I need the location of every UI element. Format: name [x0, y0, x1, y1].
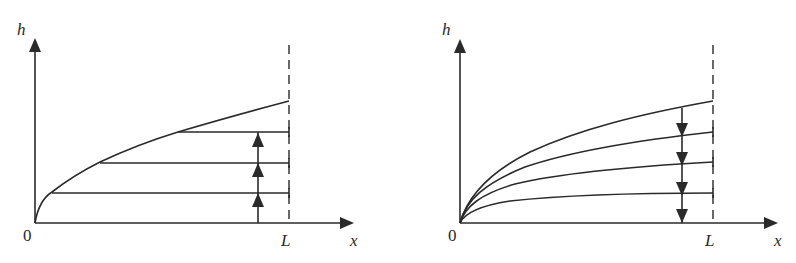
right-curve-2 — [460, 132, 713, 223]
left-up-arrow-icon-3 — [252, 193, 264, 207]
right-y-axis-label: h — [442, 20, 451, 39]
right-down-arrow-icon-4 — [676, 209, 688, 223]
left-y-axis-arrow-icon — [29, 38, 41, 52]
right-origin-label: 0 — [448, 226, 457, 245]
right-x-axis-arrow-icon — [764, 217, 778, 229]
right-y-axis-arrow-icon — [454, 39, 466, 53]
diagram-canvas: h 0 L x h 0 L x — [0, 0, 796, 263]
right-x-axis-label: x — [773, 231, 782, 250]
left-y-axis-label: h — [17, 20, 26, 39]
left-x-axis-arrow-icon — [340, 217, 354, 229]
right-curve-1 — [460, 101, 713, 223]
right-diagram — [454, 39, 778, 229]
left-boundary-label: L — [280, 231, 290, 250]
left-diagram — [29, 38, 354, 229]
left-origin-label: 0 — [23, 226, 32, 245]
left-up-arrow-icon-2 — [252, 163, 264, 177]
left-up-arrow-icon-1 — [252, 133, 264, 147]
right-boundary-label: L — [704, 231, 714, 250]
right-curve-4 — [460, 193, 713, 223]
left-x-axis-label: x — [349, 231, 358, 250]
left-profile-curve — [35, 101, 289, 223]
